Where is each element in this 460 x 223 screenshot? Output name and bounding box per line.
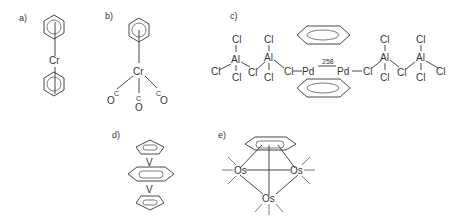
osmium-atom-left: Os — [234, 165, 247, 176]
svg-text:O: O — [160, 95, 168, 106]
svg-text:Al: Al — [264, 52, 273, 63]
benzene-ring-middle — [128, 167, 174, 181]
svg-text:Cl: Cl — [380, 34, 389, 45]
chromium-atom-b: Cr — [133, 66, 144, 77]
panel-d: d) V V — [112, 130, 174, 210]
panel-e-label: e) — [218, 130, 226, 140]
cyclopentadienyl-ring-bottom — [136, 196, 164, 210]
palladium-atom-right: Pd — [337, 66, 349, 77]
svg-text:C: C — [136, 95, 141, 102]
panel-a: a) Cr — [19, 13, 64, 96]
svg-text:Cl: Cl — [232, 34, 241, 45]
svg-text:Al: Al — [416, 52, 425, 63]
panel-b-label: b) — [105, 11, 113, 21]
svg-text:Cl: Cl — [363, 66, 372, 77]
svg-text:Cl: Cl — [284, 66, 293, 77]
panel-c: c) Cl Al Cl Cl Cl Cl Al Cl Cl Pd 258 Pd … — [211, 11, 445, 97]
svg-text:Cl: Cl — [397, 67, 406, 78]
panel-d-label: d) — [112, 130, 120, 140]
svg-text:Cl: Cl — [211, 66, 220, 77]
vanadium-atom-bottom: V — [146, 184, 153, 195]
svg-text:Al: Al — [380, 52, 389, 63]
chromium-atom-a: Cr — [49, 55, 60, 66]
bond-length-label: 258 — [322, 58, 334, 65]
cyclopentadienyl-ring-top — [136, 140, 164, 154]
osmium-atom-right: Os — [290, 165, 303, 176]
palladium-atom-left: Pd — [302, 66, 314, 77]
svg-text:Cl: Cl — [416, 72, 425, 83]
svg-text:Cl: Cl — [416, 34, 425, 45]
osmium-atom-bottom: Os — [262, 193, 275, 204]
svg-text:Cl: Cl — [232, 72, 241, 83]
svg-text:Cl: Cl — [380, 72, 389, 83]
svg-text:Cl: Cl — [436, 66, 445, 77]
organometallic-structures-diagram: a) Cr b) Cr O C C O C O c) Cl — [0, 0, 460, 223]
svg-text:Al: Al — [231, 54, 240, 65]
panel-e: e) Os Os Os — [218, 130, 315, 215]
svg-text:Cl: Cl — [248, 67, 257, 78]
svg-text:C: C — [114, 90, 119, 97]
svg-text:Cl: Cl — [264, 34, 273, 45]
panel-b: b) Cr O C C O C O — [105, 11, 168, 113]
benzene-ring-lower — [297, 79, 350, 97]
benzene-ring-upper — [297, 26, 350, 44]
vanadium-atom-top: V — [146, 157, 153, 168]
svg-text:Cl: Cl — [264, 72, 273, 83]
panel-a-label: a) — [19, 13, 27, 23]
panel-c-label: c) — [230, 11, 238, 21]
svg-text:O: O — [135, 102, 143, 113]
